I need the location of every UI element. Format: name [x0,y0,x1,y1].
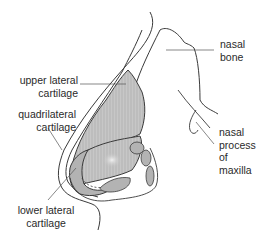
nasal-bone [160,29,218,115]
label-upper-lateral-cartilage: upper lateral cartilage [16,74,78,99]
leader-maxilla [196,122,214,144]
accessory-cartilage-3 [146,166,154,186]
accessory-cartilage-2 [141,150,151,166]
label-nasal-process-of-maxilla: nasal process of maxilla [219,126,256,176]
label-quadrilateral-cartilage: quadrilateral cartilage [14,108,76,133]
label-lower-lateral-cartilage: lower lateral cartilage [14,204,78,229]
label-nasal-bone: nasal bone [220,38,245,63]
maxilla-process [178,90,210,133]
accessory-cartilage-1 [130,142,144,154]
